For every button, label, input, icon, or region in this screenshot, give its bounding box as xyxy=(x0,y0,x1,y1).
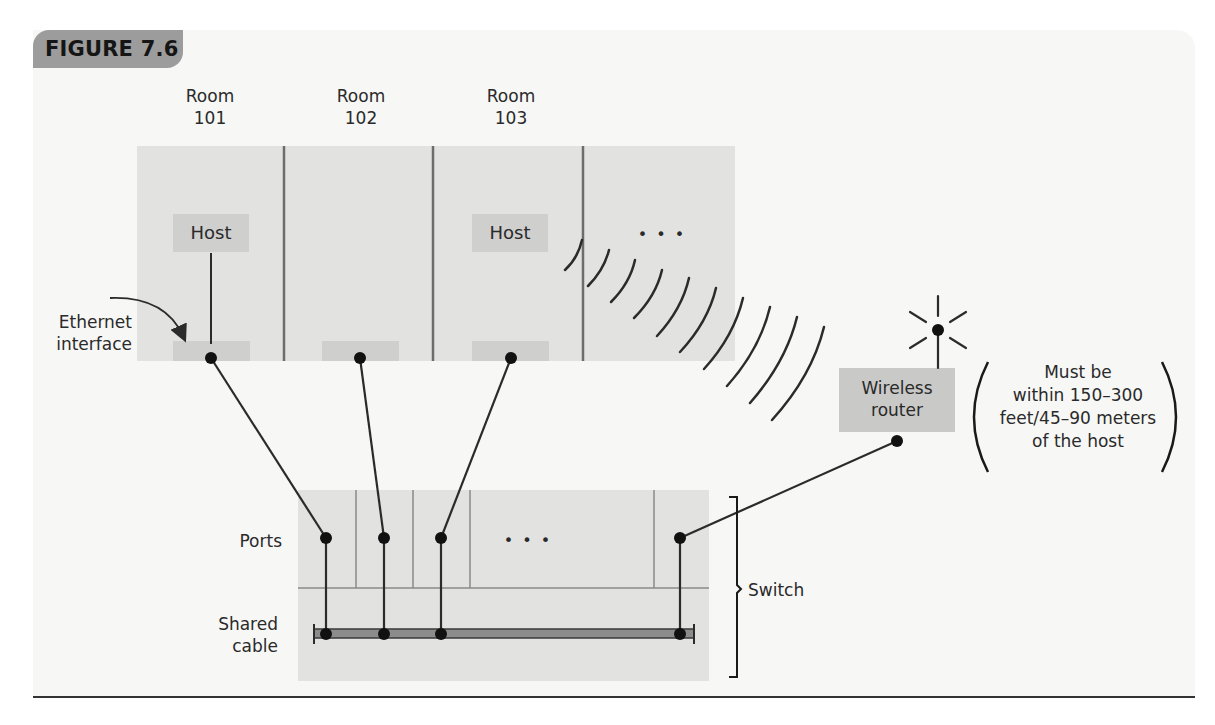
ethernet-cables xyxy=(211,358,897,538)
shared-cable-bus xyxy=(314,624,694,644)
diagram-lines xyxy=(0,0,1215,725)
port-to-bus-links xyxy=(326,538,680,634)
range-note-right-paren xyxy=(1162,362,1176,472)
switch-brace xyxy=(729,497,741,677)
room-walls xyxy=(284,146,583,361)
ethernet-pointer-arrow xyxy=(110,298,183,336)
wireless-signal-waves xyxy=(565,240,824,420)
switch-port-dividers xyxy=(298,490,709,588)
antenna-dot xyxy=(932,324,944,336)
range-note-left-paren xyxy=(974,362,988,472)
connection-dots xyxy=(205,352,903,640)
figure-bottom-rule xyxy=(33,696,1195,698)
